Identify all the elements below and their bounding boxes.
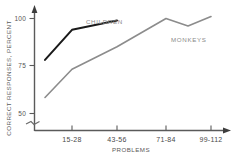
x-axis-title: PROBLEMS xyxy=(112,146,150,153)
series-line-monkeys xyxy=(45,17,211,98)
series-label-monkeys: MONKEYS xyxy=(171,36,207,43)
chart-screenshot: 100 75 50 CORRECT RESPONSES, PERCENT 15-… xyxy=(0,0,234,159)
x-tick-label-43-56: 43-56 xyxy=(107,136,126,143)
x-tick-label-71-84: 71-84 xyxy=(156,136,175,143)
y-tick-label-50: 50 xyxy=(18,110,26,117)
series-line-children xyxy=(45,20,117,60)
y-axis-title: CORRECT RESPONSES, PERCENT xyxy=(5,20,12,135)
y-tick-label-75: 75 xyxy=(18,62,26,69)
x-tick-label-99-112: 99-112 xyxy=(199,136,222,143)
y-axis-break-symbol xyxy=(26,122,40,125)
x-tick-label-15-28: 15-28 xyxy=(62,136,81,143)
x-axis-arrowhead xyxy=(223,128,231,134)
line-chart: 100 75 50 CORRECT RESPONSES, PERCENT 15-… xyxy=(0,0,234,159)
y-axis-arrowhead xyxy=(32,5,38,13)
y-tick-label-100: 100 xyxy=(15,15,27,22)
series-label-children: CHILDREN xyxy=(86,18,123,25)
